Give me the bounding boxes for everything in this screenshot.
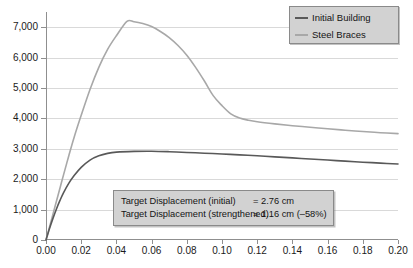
x-tick: [257, 240, 258, 244]
x-tick: [187, 240, 188, 244]
legend-item-initial-building: Initial Building: [290, 9, 400, 26]
x-tick: [292, 240, 293, 244]
legend-line-icon-steel-braces: [295, 30, 308, 39]
annotation-value-strengthened: = 1.16 cm (–58%): [253, 208, 327, 221]
y-tick-label: 3,000: [0, 144, 38, 154]
annotation-row-strengthened: Target Displacement (strengthened) = 1.1…: [121, 208, 327, 221]
x-tick-label: 0.10: [202, 246, 242, 256]
y-tick-label: 4,000: [0, 113, 38, 123]
x-tick: [363, 240, 364, 244]
x-tick-label: 0.12: [237, 246, 277, 256]
y-tick-label: 0: [0, 235, 38, 245]
annotation-label-strengthened: Target Displacement (strengthened): [121, 208, 253, 221]
x-tick-label: 0.16: [308, 246, 348, 256]
target-displacement-annotation: Target Displacement (initial) = 2.76 cm …: [113, 190, 334, 226]
x-tick-label: 0.00: [26, 246, 66, 256]
x-tick-label: 0.04: [96, 246, 136, 256]
x-tick: [152, 240, 153, 244]
x-tick: [398, 240, 399, 244]
chart-legend: Initial Building Steel Braces: [289, 6, 399, 44]
x-tick-label: 0.18: [343, 246, 383, 256]
y-tick-label: 6,000: [0, 53, 38, 63]
y-tick-label: 1,000: [0, 205, 38, 215]
annotation-label-initial: Target Displacement (initial): [121, 195, 253, 208]
y-tick-label: 2,000: [0, 174, 38, 184]
annotation-value-initial: = 2.76 cm: [253, 195, 294, 208]
x-tick: [328, 240, 329, 244]
annotation-row-initial: Target Displacement (initial) = 2.76 cm: [121, 195, 327, 208]
x-tick-label: 0.14: [272, 246, 312, 256]
legend-label-initial-building: Initial Building: [312, 12, 371, 23]
x-tick: [116, 240, 117, 244]
x-tick: [222, 240, 223, 244]
legend-item-steel-braces: Steel Braces: [290, 26, 400, 43]
x-tick-label: 0.06: [132, 246, 172, 256]
y-tick-label: 7,000: [0, 22, 38, 32]
legend-line-icon-initial-building: [295, 13, 308, 22]
x-tick-label: 0.20: [378, 246, 413, 256]
x-tick: [81, 240, 82, 244]
x-tick-label: 0.02: [61, 246, 101, 256]
x-tick-label: 0.08: [167, 246, 207, 256]
legend-label-steel-braces: Steel Braces: [312, 29, 366, 40]
y-tick-label: 5,000: [0, 83, 38, 93]
